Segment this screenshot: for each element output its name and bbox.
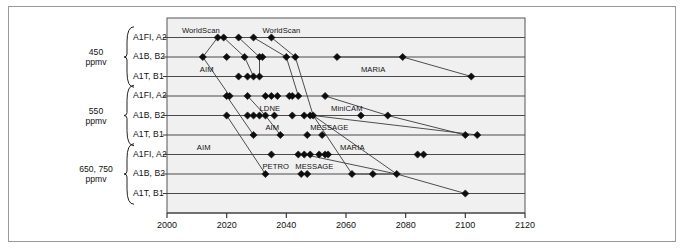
series-annotation-label: PETRO <box>262 162 289 171</box>
x-tick-label: 2100 <box>443 220 487 230</box>
series-annotation-label: MESSAGE <box>310 123 348 132</box>
series-annotation-label: MiniCAM <box>331 104 363 113</box>
group-brace <box>124 85 134 145</box>
group-brace <box>124 144 134 204</box>
series-annotation-label: AIM <box>265 123 279 132</box>
series-annotation-label: WorldScan <box>262 26 300 35</box>
x-tick-label: 2000 <box>145 220 189 230</box>
x-tick-label: 2040 <box>264 220 308 230</box>
series-annotation-label: MESSAGE <box>295 162 333 171</box>
x-tick-label: 2080 <box>384 220 428 230</box>
group-brace <box>124 27 134 87</box>
series-annotation-label: WorldScan <box>182 26 220 35</box>
series-annotation-label: AIM <box>200 65 214 74</box>
figure-frame: A1FI, A2A1B, B2A1T, B1450ppmvA1FI, A2A1B… <box>8 6 676 242</box>
x-tick-label: 2020 <box>205 220 249 230</box>
series-annotation-label: MARIA <box>361 65 386 74</box>
series-annotation-label: LDNE <box>259 104 280 113</box>
x-tick-label: 2120 <box>503 220 547 230</box>
series-annotation-label: MARIA <box>340 143 365 152</box>
x-tick-label: 2060 <box>324 220 368 230</box>
series-annotation-label: AIM <box>197 143 211 152</box>
